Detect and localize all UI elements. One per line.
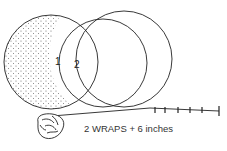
rope-tail-line bbox=[52, 108, 219, 116]
caption: 2 WRAPS + 6 inches bbox=[84, 123, 173, 134]
rope-ball-icon bbox=[38, 114, 64, 139]
wrap-1-circle bbox=[59, 19, 147, 107]
wrap-label-2: 2 bbox=[74, 60, 80, 70]
stipple-shading bbox=[4, 15, 98, 109]
wrap-label-1: 1 bbox=[55, 57, 61, 67]
wrap-2-circle bbox=[76, 11, 172, 107]
